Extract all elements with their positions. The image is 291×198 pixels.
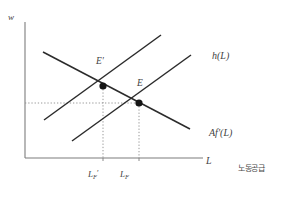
tick-label-labor-shifted-prime: ′ xyxy=(97,169,99,178)
equilibrium-shifted-point-marker xyxy=(99,82,106,89)
labor-demand-curve-label: Af′(L) xyxy=(209,128,232,138)
diagram-caption: 노동공급 xyxy=(238,165,265,173)
equilibrium-point-marker xyxy=(135,99,142,106)
x-axis-label: L xyxy=(206,156,212,166)
equilibrium-shifted-point-label: E′ xyxy=(96,57,104,67)
tick-label-labor-shifted: LF′ xyxy=(88,170,99,181)
y-axis-label: w xyxy=(8,13,14,22)
labor-supply-shifted-curve xyxy=(44,35,161,120)
labor-demand-curve xyxy=(43,52,190,129)
tick-label-labor-subscript: F xyxy=(125,173,129,180)
labor-supply-curve xyxy=(72,55,191,141)
tick-label-labor: LF xyxy=(120,170,129,180)
equilibrium-point-label: E xyxy=(137,79,143,89)
labor-supply-curve-label: h(L) xyxy=(212,51,229,61)
labor-market-diagram: w L h(L) Af′(L) E E′ LF′ LF 노동공급 xyxy=(0,0,291,198)
